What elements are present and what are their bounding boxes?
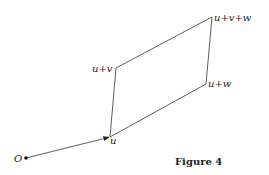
parallelogram (110, 17, 212, 137)
origin-point (24, 156, 28, 160)
figure-canvas: O u u+v u+v+w u+w Figure 4 (0, 0, 269, 175)
point-u-plus-v-label: u+v (92, 63, 113, 74)
point-u-plus-v-plus-w-label: u+v+w (214, 12, 252, 23)
origin-label: O (14, 153, 22, 164)
point-u-plus-w-label: u+w (208, 78, 232, 89)
figure-caption: Figure 4 (175, 156, 222, 167)
vector-u-arrow (26, 137, 109, 158)
point-u-label: u (110, 135, 116, 146)
